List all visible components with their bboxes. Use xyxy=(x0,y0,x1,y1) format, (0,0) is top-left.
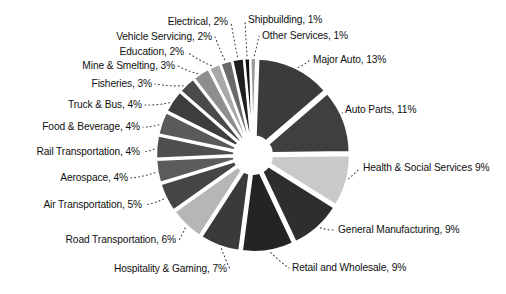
label-leader-line xyxy=(231,22,238,61)
label-leader-line xyxy=(145,197,167,205)
label-leader-line xyxy=(179,224,187,240)
pie-slice-label: Rail Transportation, 4% xyxy=(0,146,140,157)
pie-slice-label: Major Auto, 13% xyxy=(313,54,386,65)
label-leader-line xyxy=(187,52,215,67)
label-leader-line xyxy=(253,36,259,59)
pie-slice-label: Auto Parts, 11% xyxy=(345,104,416,115)
pie-chart-figure: Major Auto, 13%Auto Parts, 11%Health & S… xyxy=(0,0,506,294)
pie-slice-label: Fisheries, 3% xyxy=(0,78,152,89)
pie-slice-label: Hospitality & Gaming, 7% xyxy=(0,263,227,274)
pie-slice-label: Air Transportation, 5% xyxy=(0,199,142,210)
label-leader-line xyxy=(245,20,247,60)
label-leader-line xyxy=(215,37,226,63)
pie-slice-label: Other Services, 1% xyxy=(262,30,348,41)
pie-slice-label: Education, 2% xyxy=(0,46,184,57)
pie-slice-label: Retail and Wholesale, 9% xyxy=(292,262,406,273)
label-leader-line xyxy=(131,171,159,178)
pie-slice-label: General Manufacturing, 9% xyxy=(338,224,460,235)
pie-slice-label: Electrical, 2% xyxy=(0,16,228,27)
pie-slice-label: Shipbuilding, 1% xyxy=(248,14,322,25)
label-leader-line xyxy=(155,84,187,86)
pie-slice-label: Road Transportation, 6% xyxy=(0,234,176,245)
pie-slice-label: Food & Beverage, 4% xyxy=(0,121,140,132)
label-leader-line xyxy=(268,249,289,268)
pie-slice-label: Health & Social Services 9% xyxy=(363,162,489,173)
pie-slice-label: Mine & Smelting, 3% xyxy=(0,60,175,71)
label-leader-line xyxy=(178,66,202,74)
pie-slice-label: Aerospace, 4% xyxy=(0,172,128,183)
pie-slice-label: Truck & Bus, 4% xyxy=(0,99,142,110)
pie-slice-label: Vehicle Servicing, 2% xyxy=(0,31,212,42)
pie-slice-group xyxy=(156,58,350,252)
